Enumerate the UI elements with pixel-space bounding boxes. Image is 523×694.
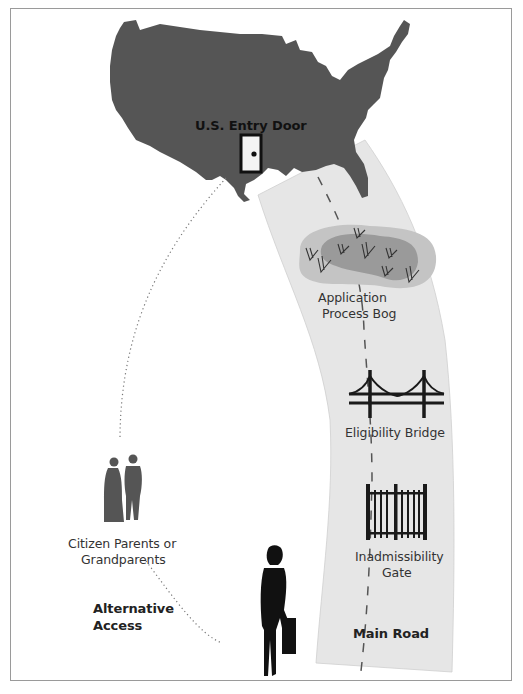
alternative-access-path	[120, 178, 226, 440]
parents-label-line1: Citizen Parents or	[68, 536, 176, 552]
bog-label-line2: Process Bog	[322, 306, 396, 322]
alternative-access-line1: Alternative	[93, 601, 174, 617]
bog-label-line1: Application	[318, 290, 387, 306]
parents-label-line2: Grandparents	[81, 552, 166, 568]
diagram-canvas	[0, 0, 523, 694]
entry-door-icon	[241, 135, 261, 172]
gate-label-line1: Inadmissibility	[355, 549, 444, 565]
bog-grass-icon	[299, 225, 436, 288]
main-road-label: Main Road	[353, 626, 429, 642]
gate-label-line2: Gate	[382, 565, 412, 581]
us-map	[110, 20, 410, 202]
woman-traveler-icon	[261, 545, 296, 676]
entry-door-label: U.S. Entry Door	[195, 118, 307, 134]
alternative-access-line2: Access	[93, 618, 142, 634]
bridge-label: Eligibility Bridge	[345, 425, 445, 441]
couple-silhouette-icon	[104, 455, 142, 523]
